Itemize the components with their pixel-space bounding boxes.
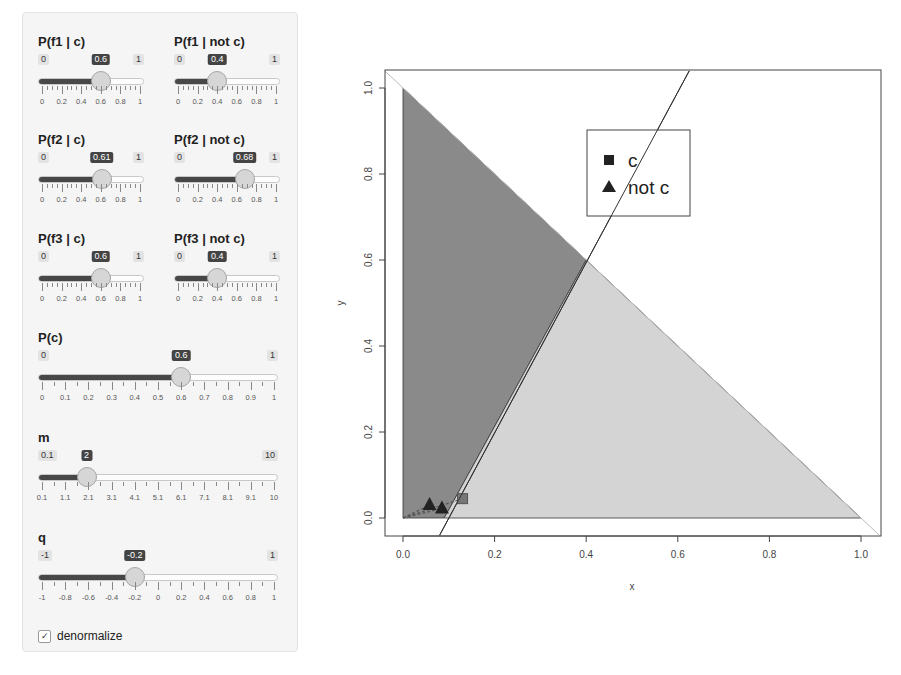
legend-label: not c xyxy=(628,177,669,198)
y-tick-label: 1.0 xyxy=(363,81,374,95)
y-tick-label: 0.6 xyxy=(363,253,374,267)
y-tick-label: 0.4 xyxy=(363,339,374,353)
legend-label: c xyxy=(628,150,638,171)
y-tick-label: 0.0 xyxy=(363,511,374,525)
y-axis-label: y xyxy=(335,301,346,306)
legend-box xyxy=(587,130,690,216)
x-tick-label: 1.0 xyxy=(854,549,868,560)
x-tick-label: 0.8 xyxy=(762,549,776,560)
naive-bayes-plot: 0.00.20.40.60.81.00.00.20.40.60.81.0xy c… xyxy=(0,0,901,675)
legend-square-icon xyxy=(604,155,614,165)
x-tick-label: 0.4 xyxy=(579,549,593,560)
x-tick-label: 0.6 xyxy=(671,549,685,560)
y-tick-label: 0.8 xyxy=(363,167,374,181)
x-tick-label: 0.2 xyxy=(488,549,502,560)
x-axis-label: x xyxy=(630,581,635,592)
x-tick-label: 0.0 xyxy=(396,549,410,560)
y-tick-label: 0.2 xyxy=(363,425,374,439)
